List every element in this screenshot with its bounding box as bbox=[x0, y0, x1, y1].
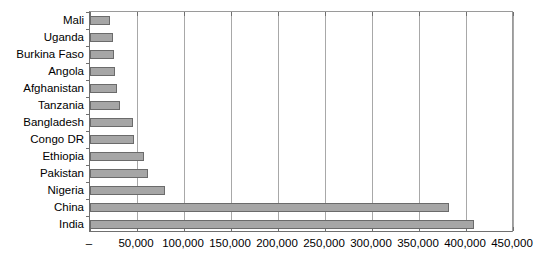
y-axis-tick-mark bbox=[86, 114, 90, 115]
x-axis-tick-mark bbox=[325, 12, 326, 16]
x-axis-tick-label: 300,000 bbox=[350, 236, 392, 250]
x-axis-tick-label: 250,000 bbox=[303, 236, 345, 250]
x-axis-tick-mark bbox=[372, 12, 373, 16]
y-axis-tick-mark bbox=[86, 46, 90, 47]
y-axis-tick-mark bbox=[86, 148, 90, 149]
y-axis-category-label: Uganda bbox=[0, 31, 84, 43]
y-axis-tick-mark bbox=[86, 80, 90, 81]
bar bbox=[90, 220, 474, 229]
x-axis-tick-mark bbox=[513, 227, 514, 231]
bar bbox=[90, 33, 113, 42]
x-axis-tick-label: 100,000 bbox=[162, 236, 204, 250]
y-axis-category-label: Burkina Faso bbox=[0, 48, 84, 60]
x-axis-tick-mark bbox=[466, 12, 467, 16]
gridline bbox=[372, 12, 373, 231]
y-axis-tick-mark bbox=[86, 165, 90, 166]
bar bbox=[90, 67, 115, 76]
y-axis-tick-mark bbox=[86, 216, 90, 217]
y-axis-tick-mark bbox=[86, 63, 90, 64]
x-axis-tick-labels: –50,000100,000150,000200,000250,000300,0… bbox=[0, 236, 544, 254]
x-axis-tick-label: 400,000 bbox=[444, 236, 486, 250]
gridline bbox=[419, 12, 420, 231]
x-axis-tick-label: – bbox=[86, 236, 92, 250]
bar bbox=[90, 118, 133, 127]
x-axis-tick-mark bbox=[231, 12, 232, 16]
bar-chart: MaliUgandaBurkina FasoAngolaAfghanistanT… bbox=[0, 0, 544, 265]
gridline bbox=[513, 12, 514, 231]
y-axis-category-label: India bbox=[0, 218, 84, 230]
gridline bbox=[278, 12, 279, 231]
plot-area bbox=[89, 11, 513, 232]
y-axis-tick-mark bbox=[86, 131, 90, 132]
x-axis-tick-mark bbox=[513, 12, 514, 16]
y-axis-tick-mark bbox=[86, 97, 90, 98]
y-axis-category-label: Ethiopia bbox=[0, 150, 84, 162]
x-axis-tick-label: 350,000 bbox=[397, 236, 439, 250]
bar bbox=[90, 203, 449, 212]
x-axis-tick-mark bbox=[419, 12, 420, 16]
bar bbox=[90, 50, 114, 59]
y-axis-category-label: Mali bbox=[0, 14, 84, 26]
x-axis-tick-mark bbox=[278, 12, 279, 16]
y-axis-tick-mark bbox=[86, 12, 90, 13]
x-axis-tick-label: 200,000 bbox=[256, 236, 298, 250]
y-axis-tick-mark bbox=[86, 199, 90, 200]
gridline bbox=[137, 12, 138, 231]
x-axis-tick-mark bbox=[184, 12, 185, 16]
y-axis-category-label: Bangladesh bbox=[0, 116, 84, 128]
y-axis-category-label: Nigeria bbox=[0, 184, 84, 196]
y-axis-category-label: Congo DR bbox=[0, 133, 84, 145]
x-axis-tick-label: 50,000 bbox=[118, 236, 153, 250]
y-axis-category-label: Afghanistan bbox=[0, 82, 84, 94]
y-axis-tick-mark bbox=[86, 182, 90, 183]
gridline bbox=[184, 12, 185, 231]
bar bbox=[90, 135, 134, 144]
gridline bbox=[231, 12, 232, 231]
y-axis-category-labels: MaliUgandaBurkina FasoAngolaAfghanistanT… bbox=[0, 11, 84, 232]
bar bbox=[90, 16, 110, 25]
y-axis-category-label: Tanzania bbox=[0, 99, 84, 111]
y-axis-category-label: Angola bbox=[0, 65, 84, 77]
x-axis-tick-label: 150,000 bbox=[209, 236, 251, 250]
y-axis-category-label: China bbox=[0, 201, 84, 213]
gridline bbox=[325, 12, 326, 231]
bar bbox=[90, 152, 144, 161]
x-axis-tick-mark bbox=[137, 12, 138, 16]
bar bbox=[90, 186, 165, 195]
y-axis-category-label: Pakistan bbox=[0, 167, 84, 179]
bar bbox=[90, 101, 120, 110]
bar bbox=[90, 169, 148, 178]
bar bbox=[90, 84, 117, 93]
y-axis-tick-mark bbox=[86, 29, 90, 30]
x-axis-tick-label: 450,000 bbox=[491, 236, 533, 250]
gridline bbox=[466, 12, 467, 231]
